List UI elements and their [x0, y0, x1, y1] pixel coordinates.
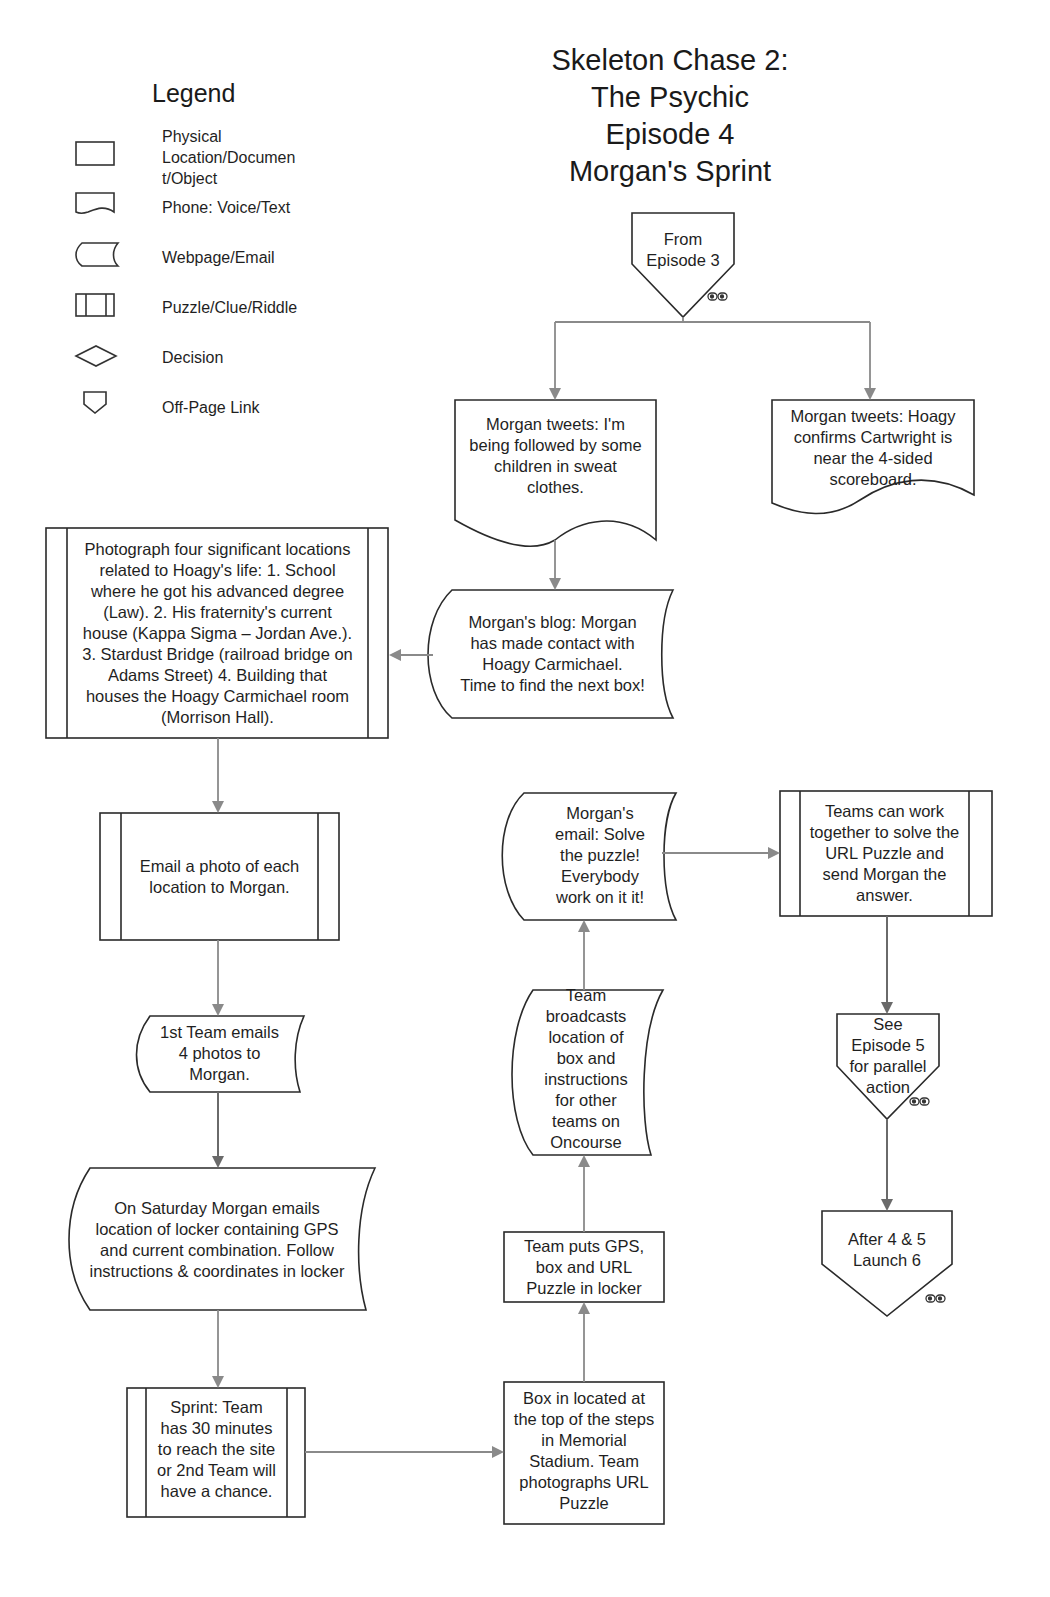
- node-text-line: the top of the steps: [514, 1409, 654, 1430]
- node-text-line: scoreboard.: [829, 469, 916, 490]
- node-text-line: Morgan tweets: I'm: [486, 414, 625, 435]
- node-text-line: box and URL: [536, 1257, 632, 1278]
- node-text-line: From: [664, 229, 703, 250]
- legend-label-webpage: Webpage/Email: [162, 247, 275, 268]
- legend-label-puzzle: Puzzle/Clue/Riddle: [162, 297, 297, 318]
- node-text-line: Teams can work: [825, 801, 944, 822]
- node-text-line: (Morrison Hall).: [161, 707, 274, 728]
- node-photograph: Photograph four significant locations re…: [67, 536, 368, 730]
- legend-webpage-icon: [76, 243, 118, 266]
- node-text-line: Morgan tweets: Hoagy: [790, 406, 955, 427]
- node-text-line: and current combination. Follow: [100, 1240, 334, 1261]
- node-text-line: 3. Stardust Bridge (railroad bridge on: [82, 644, 353, 665]
- node-text-line: Puzzle in locker: [526, 1278, 642, 1299]
- node-text-line: clothes.: [527, 477, 584, 498]
- node-text-line: Morgan's: [566, 803, 633, 824]
- node-text-line: location to Morgan.: [149, 877, 289, 898]
- link-icon-from-ep3[interactable]: [708, 293, 727, 300]
- node-text-line: Hoagy Carmichael.: [482, 654, 622, 675]
- node-text-line: instructions: [544, 1069, 627, 1090]
- legend-label-physical: Physical Location/Documen t/Object: [162, 126, 295, 189]
- page-title: Skeleton Chase 2: The Psychic Episode 4 …: [510, 42, 830, 190]
- node-text-line: Email a photo of each: [140, 856, 300, 877]
- node-text-line: 4 photos to: [179, 1043, 261, 1064]
- title-line: Episode 4: [510, 116, 830, 153]
- node-text-line: URL Puzzle and: [825, 843, 944, 864]
- link-icon-launch6[interactable]: [926, 1295, 945, 1302]
- node-text-line: After 4 & 5: [848, 1229, 926, 1250]
- node-text-line: email: Solve: [555, 824, 645, 845]
- node-text-line: broadcasts: [546, 1006, 627, 1027]
- node-text-line: Morgan.: [189, 1064, 250, 1085]
- legend-rectangle-icon: [76, 142, 114, 165]
- node-text-line: have a chance.: [161, 1481, 273, 1502]
- legend-decision-icon: [76, 346, 116, 366]
- legend-offpage-icon: [84, 392, 106, 413]
- node-sprint: Sprint: Team has 30 minutes to reach the…: [146, 1394, 287, 1504]
- node-text-line: See: [873, 1014, 902, 1035]
- node-text-line: for parallel: [849, 1056, 926, 1077]
- legend-label-line: Physical: [162, 126, 295, 147]
- legend-label-offpage: Off-Page Link: [162, 397, 260, 418]
- node-text-line: being followed by some: [469, 435, 641, 456]
- node-text-line: box and: [557, 1048, 616, 1069]
- node-text-line: Morgan's blog: Morgan: [468, 612, 636, 633]
- node-text-line: Time to find the next box!: [460, 675, 645, 696]
- node-text-line: Everybody: [561, 866, 639, 887]
- node-from-episode-3: From Episode 3: [632, 228, 734, 272]
- title-line: The Psychic: [510, 79, 830, 116]
- title-line: Skeleton Chase 2:: [510, 42, 830, 79]
- node-text-line: Launch 6: [853, 1250, 921, 1271]
- node-text-line: Photograph four significant locations: [85, 539, 351, 560]
- node-text-line: location of: [548, 1027, 623, 1048]
- node-text-line: send Morgan the: [823, 864, 947, 885]
- node-text-line: Oncourse: [550, 1132, 622, 1153]
- legend-document-icon: [76, 193, 114, 213]
- node-text-line: Episode 5: [851, 1035, 924, 1056]
- node-text-line: instructions & coordinates in locker: [90, 1261, 345, 1282]
- node-text-line: to reach the site: [158, 1439, 275, 1460]
- node-teams-work: Teams can work together to solve the URL…: [800, 798, 969, 908]
- node-broadcast: Team broadcasts location of box and inst…: [522, 984, 650, 1154]
- node-text-line: work on it it!: [556, 887, 644, 908]
- node-text-line: or 2nd Team will: [157, 1460, 276, 1481]
- node-email-photo: Email a photo of each location to Morgan…: [121, 813, 318, 940]
- node-morgan-email: Morgan's email: Solve the puzzle! Everyb…: [520, 800, 680, 910]
- node-text-line: confirms Cartwright is: [794, 427, 953, 448]
- title-line: Morgan's Sprint: [510, 153, 830, 190]
- node-tweet-hoagy: Morgan tweets: Hoagy confirms Cartwright…: [772, 404, 974, 492]
- node-text-line: photographs URL: [519, 1472, 648, 1493]
- node-text-line: Team puts GPS,: [524, 1236, 644, 1257]
- node-text-line: for other: [555, 1090, 616, 1111]
- legend-title: Legend: [152, 79, 235, 108]
- legend-label-phone: Phone: Voice/Text: [162, 197, 290, 218]
- legend-puzzle-icon: [76, 294, 114, 316]
- node-text-line: Episode 3: [646, 250, 719, 271]
- node-text-line: On Saturday Morgan emails: [114, 1198, 319, 1219]
- node-launch-6: After 4 & 5 Launch 6: [822, 1228, 952, 1272]
- node-text-line: together to solve the: [810, 822, 960, 843]
- node-text-line: Team: [566, 985, 606, 1006]
- node-text-line: teams on: [552, 1111, 620, 1132]
- node-text-line: has 30 minutes: [161, 1418, 273, 1439]
- node-text-line: answer.: [856, 885, 913, 906]
- node-text-line: (Law). 2. His fraternity's current: [103, 602, 332, 623]
- legend-label-decision: Decision: [162, 347, 223, 368]
- node-tweet-followed: Morgan tweets: I'm being followed by som…: [455, 412, 656, 500]
- node-first-team: 1st Team emails 4 photos to Morgan.: [142, 1020, 297, 1086]
- node-text-line: the puzzle!: [560, 845, 640, 866]
- node-text-line: house (Kappa Sigma – Jordan Ave.).: [83, 623, 352, 644]
- node-text-line: in Memorial: [541, 1430, 626, 1451]
- node-text-line: 1st Team emails: [160, 1022, 279, 1043]
- node-text-line: Box in located at: [523, 1388, 645, 1409]
- node-text-line: has made contact with: [470, 633, 634, 654]
- node-saturday: On Saturday Morgan emails location of lo…: [72, 1196, 362, 1284]
- node-text-line: Puzzle: [559, 1493, 609, 1514]
- node-text-line: related to Hoagy's life: 1. School: [99, 560, 335, 581]
- node-text-line: action: [866, 1077, 910, 1098]
- node-team-puts: Team puts GPS, box and URL Puzzle in loc…: [504, 1232, 664, 1302]
- node-text-line: houses the Hoagy Carmichael room: [86, 686, 349, 707]
- legend-label-line: t/Object: [162, 168, 295, 189]
- legend-label-line: Location/Documen: [162, 147, 295, 168]
- node-text-line: where he got his advanced degree: [91, 581, 344, 602]
